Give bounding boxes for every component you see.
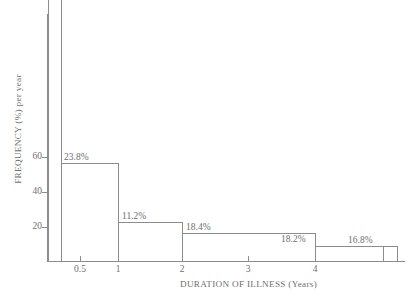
y-tick-20 — [42, 227, 47, 228]
x-tick-label-2: 2 — [167, 264, 197, 274]
x-tick-label-4: 4 — [300, 264, 330, 274]
y-tick-label-20: 20 — [18, 222, 42, 232]
histogram-chart: 60 40 20 0.5 1 2 3 4 23.8% 11.2% 18.4% 1… — [0, 0, 411, 301]
bar-label-0-0.5: 23.8% — [64, 152, 89, 162]
x-tick-label-3: 3 — [233, 264, 263, 274]
y-axis-title: FREQUENCY (%) per year — [13, 54, 23, 204]
bar-label-2-4: 18.2% — [281, 234, 306, 244]
bar-0.5-1 — [61, 163, 119, 262]
x-tick-label-0.5: 0.5 — [65, 264, 95, 274]
bar-label-1-2: 18.4% — [186, 222, 211, 232]
bar-4-plus-end-cap — [383, 246, 398, 262]
bar-4-plus — [315, 246, 384, 262]
x-axis-title: DURATION OF ILLNESS (Years) — [180, 279, 317, 289]
y-tick-60 — [42, 157, 47, 158]
bar-label-0.5-1: 11.2% — [122, 211, 146, 221]
x-tick-label-1: 1 — [103, 264, 133, 274]
bar-1-2 — [118, 222, 183, 262]
y-tick-label-20-wrap: 20 — [0, 222, 42, 232]
bar-label-4-plus: 16.8% — [348, 235, 373, 245]
bar-0-0.5 — [48, 0, 62, 262]
y-tick-40 — [42, 192, 47, 193]
